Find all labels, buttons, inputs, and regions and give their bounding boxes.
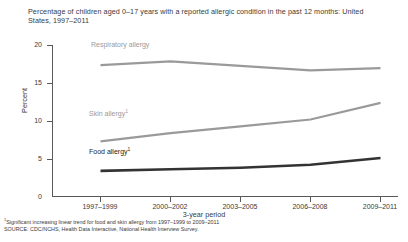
x-tick-label-2000-2002: 2000–2002 <box>135 203 205 210</box>
x-axis-title: 3-year period <box>0 210 408 219</box>
series-line-skin <box>101 103 381 142</box>
footnotes-block: 1Significant increasing linear trend for… <box>4 219 334 233</box>
series-label-skin-text: Skin allergy <box>89 110 125 117</box>
series-label-skin: Skin allergy1 <box>89 110 128 117</box>
footnote-1-text: Significant increasing linear trend for … <box>6 219 219 225</box>
series-line-food <box>101 158 381 171</box>
series-label-food-text: Food allergy <box>89 148 128 155</box>
x-tick-label-1997-1999: 1997–1999 <box>65 203 135 210</box>
series-label-food-footnote-marker: 1 <box>128 146 131 152</box>
allergy-trend-chart: Percentage of children aged 0–17 years w… <box>0 0 408 242</box>
series-label-respiratory-text: Respiratory allergy <box>91 41 149 48</box>
x-tick-label-2009-2011: 2009–2011 <box>345 203 408 210</box>
series-label-respiratory: Respiratory allergy <box>91 41 149 48</box>
footnote-source: SOURCE: CDC/NCHS, Health Data Interactiv… <box>4 226 334 233</box>
x-tick-label-2003-2005: 2003–2005 <box>205 203 275 210</box>
series-label-food: Food allergy1 <box>89 148 130 155</box>
series-line-respiratory <box>101 61 381 70</box>
footnote-1: 1Significant increasing linear trend for… <box>4 219 334 226</box>
series-label-skin-footnote-marker: 1 <box>125 108 128 114</box>
x-tick-label-2006-2008: 2006–2008 <box>275 203 345 210</box>
